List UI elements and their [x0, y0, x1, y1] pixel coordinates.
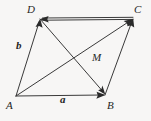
figure-canvas [0, 0, 151, 121]
vector-label-a: a [60, 94, 66, 105]
vertex-label-c: C [134, 4, 141, 15]
edge-bc-line [105, 21, 132, 95]
edge-ad-line [16, 22, 39, 97]
edge-dc-line-upper [43, 17, 134, 18]
vertex-label-b: B [107, 100, 114, 111]
vector-parallelogram-figure: D C A B b a M [0, 0, 151, 121]
arrowhead-at-d-from-c [40, 16, 49, 23]
vector-label-b: b [16, 40, 22, 51]
diagonal-ac-line [16, 21, 131, 97]
vertex-label-a: A [6, 100, 13, 111]
vector-label-m: M [92, 52, 101, 63]
vertex-label-d: D [27, 4, 35, 15]
edge-dc-line-lower [43, 19, 134, 20]
